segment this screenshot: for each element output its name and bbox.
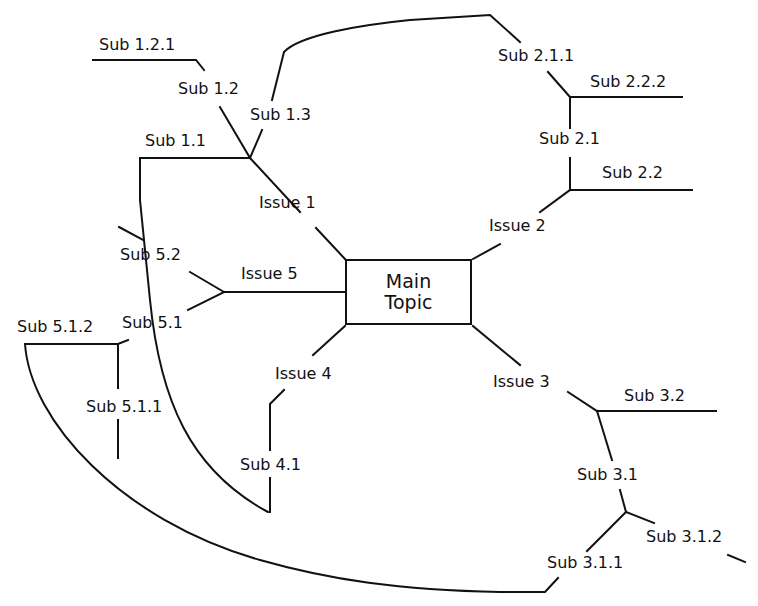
line-sub1-3: [250, 130, 262, 158]
sub-3-2-node[interactable]: Sub 3.2: [624, 387, 685, 405]
line-sub3-1-down: [620, 490, 626, 512]
sub-2-1-1-node[interactable]: Sub 2.1.1: [498, 47, 574, 65]
line-main-issue2: [473, 244, 500, 259]
issue-4-node[interactable]: Issue 4: [275, 365, 332, 383]
sub-5-1-2-node[interactable]: Sub 5.1.2: [17, 318, 93, 336]
main-topic-label-line2: Topic: [385, 292, 433, 313]
sub-1-2-1-node[interactable]: Sub 1.2.1: [99, 36, 175, 54]
line-sub2-1-1: [548, 72, 570, 97]
issue-2-node[interactable]: Issue 2: [489, 217, 546, 235]
issue-1-node[interactable]: Issue 1: [259, 194, 316, 212]
line-issue2-hub: [540, 190, 570, 212]
line-main-issue3: [473, 326, 520, 365]
sub-5-1-1-node[interactable]: Sub 5.1.1: [86, 398, 162, 416]
sub-2-1-node[interactable]: Sub 2.1: [539, 130, 600, 148]
sub-1-1-node[interactable]: Sub 1.1: [145, 132, 206, 150]
line-sub5-1-2: [25, 340, 128, 344]
sub-5-1-node[interactable]: Sub 5.1: [122, 314, 183, 332]
line-sub3-1-2: [626, 512, 654, 523]
line-issue4-sub4-1: [270, 390, 284, 450]
sub-2-2-2-node[interactable]: Sub 2.2.2: [590, 73, 666, 91]
sub-5-2-node[interactable]: Sub 5.2: [120, 246, 181, 264]
sub-1-2-node[interactable]: Sub 1.2: [178, 80, 239, 98]
sub-4-1-node[interactable]: Sub 4.1: [240, 456, 301, 474]
line-main-issue4: [313, 326, 345, 355]
line-sub5-1: [188, 292, 224, 310]
issue-3-node[interactable]: Issue 3: [493, 373, 550, 391]
sub-3-1-node[interactable]: Sub 3.1: [577, 466, 638, 484]
sub-3-1-1-node[interactable]: Sub 3.1.1: [547, 554, 623, 572]
line-issue3-hub: [568, 392, 597, 411]
sub-3-1-2-node[interactable]: Sub 3.1.2: [646, 528, 722, 546]
line-sub1-2: [220, 107, 250, 158]
crosslink-sub1-3-sub2-1-1: [272, 15, 520, 100]
main-topic-node[interactable]: Main Topic: [345, 259, 472, 325]
line-sub3-1: [597, 411, 612, 460]
main-topic-label-line1: Main: [386, 271, 431, 292]
sub-2-2-node[interactable]: Sub 2.2: [602, 164, 663, 182]
line-sub5-2: [190, 272, 224, 292]
sub-1-3-node[interactable]: Sub 1.3: [250, 106, 311, 124]
line-sub1-1: [140, 158, 250, 200]
line-main-issue1: [316, 228, 345, 259]
issue-5-node[interactable]: Issue 5: [241, 265, 298, 283]
mind-map-canvas: Main Topic Issue 1 Issue 2 Issue 3 Issue…: [0, 0, 758, 606]
line-sub1-2-1: [93, 60, 204, 70]
line-sub3-1-2-tail: [728, 555, 745, 562]
line-sub5-2-tail: [119, 227, 143, 240]
line-sub3-1-1: [587, 512, 626, 551]
